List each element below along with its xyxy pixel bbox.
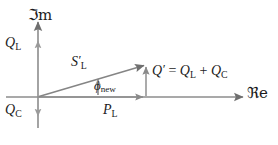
q-l-symbol: Q <box>5 35 15 50</box>
real-axis-label: ℜe <box>247 86 268 101</box>
q-l-axis-label: QL <box>5 36 21 50</box>
phasor-diagram-figure: ℑm ℜe QL QC S′L ϕnew PL Q′ = QL + QC <box>0 0 278 145</box>
q-c-subscript: C <box>15 108 22 119</box>
q-term1-symbol: Q <box>180 63 190 78</box>
apparent-power-label: S′L <box>71 55 87 69</box>
phi-subscript: new <box>101 84 116 94</box>
phase-angle-label: ϕnew <box>94 79 116 92</box>
q-prime-mark: ′ <box>162 62 165 76</box>
q-term2-subscript: C <box>221 69 228 80</box>
phi-symbol: ϕ <box>94 78 101 93</box>
p-subscript: L <box>112 108 118 119</box>
imaginary-axis-label: ℑm <box>28 8 52 23</box>
q-c-axis-label: QC <box>5 103 22 117</box>
q-term1-subscript: L <box>190 69 196 80</box>
q-c-symbol: Q <box>5 102 15 117</box>
s-symbol: S <box>71 54 78 69</box>
p-symbol: P <box>103 102 112 117</box>
figure-caption <box>0 136 278 145</box>
q-prime-symbol: Q <box>152 63 162 78</box>
q-l-subscript: L <box>15 41 21 52</box>
q-term2-symbol: Q <box>211 63 221 78</box>
apparent-power-vector <box>39 66 144 97</box>
reactive-power-equation: Q′ = QL + QC <box>152 64 228 78</box>
s-subscript: L <box>81 60 87 71</box>
real-power-label: PL <box>103 103 118 117</box>
